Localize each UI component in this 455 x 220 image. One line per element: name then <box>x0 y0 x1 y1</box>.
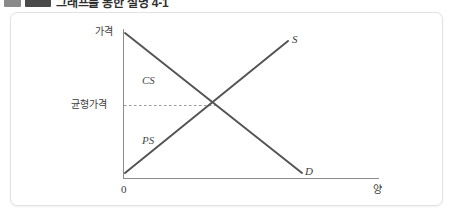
clipped-header-strip: 그래프를 통한 설명 4-1 <box>0 0 455 9</box>
supply-curve <box>125 41 288 173</box>
origin-label: 0 <box>121 184 127 195</box>
header-title: 그래프를 통한 설명 4-1 <box>56 0 169 9</box>
y-axis-label: 가격 <box>95 27 113 37</box>
equilibrium-price-label: 균형가격 <box>71 100 107 110</box>
producer-surplus-label: PS <box>142 135 154 146</box>
consumer-surplus-label: CS <box>142 75 155 86</box>
supply-curve-label: S <box>292 34 298 45</box>
supply-demand-plot: 가격 균형가격 CS PS S D 0 양 <box>11 13 443 206</box>
demand-curve-label: D <box>305 166 313 177</box>
x-axis-label: 양 <box>373 185 382 195</box>
header-badge-left-icon <box>4 0 21 7</box>
figure-card: 가격 균형가격 CS PS S D 0 양 <box>10 12 443 206</box>
header-badge-right-icon <box>25 0 51 7</box>
